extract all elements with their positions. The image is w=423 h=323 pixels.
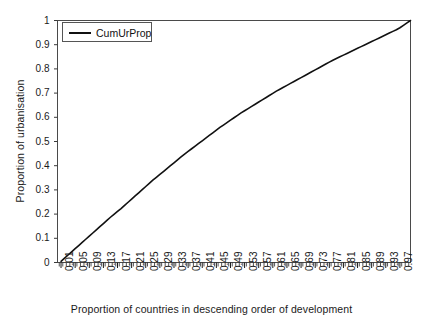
y-axis-title: Proportion of urbanisation (14, 20, 26, 262)
x-axis-tick-label: 0.93 (390, 251, 400, 270)
x-axis-tick-label: 0.81 (347, 251, 357, 270)
chart-legend: CumUrProp (62, 22, 152, 42)
legend-line-swatch (69, 32, 91, 34)
plot-frame (58, 21, 411, 263)
x-axis-tick-label: 0.57 (263, 251, 273, 270)
x-axis-tick-label: 0.65 (291, 251, 301, 270)
x-axis-tick-label: 0.61 (277, 251, 287, 270)
x-axis-tick-label: 0.37 (192, 251, 202, 270)
chart-figure: 00.10.20.30.40.50.60.70.80.91 0.010.050.… (0, 0, 423, 323)
x-axis-tick-label: 0.69 (305, 251, 315, 270)
x-axis-tick-label: 0.17 (122, 251, 132, 270)
x-axis-tick-label: 0.49 (234, 251, 244, 270)
x-axis-title: Proportion of countries in descending or… (0, 303, 423, 315)
x-axis-tick-label: 0.05 (79, 251, 89, 270)
x-axis-tick-label: 0.41 (206, 251, 216, 270)
x-axis-tick-label: 0.53 (249, 251, 259, 270)
x-axis-tick-label: 0.33 (178, 251, 188, 270)
x-axis-tick-label: 0.21 (136, 251, 146, 270)
x-axis-tick-label: 0.73 (319, 251, 329, 270)
chart-plot-svg (0, 0, 423, 323)
x-axis-tick-label: 0.89 (376, 251, 386, 270)
y-axis-ticks (54, 21, 58, 263)
x-axis-tick-label: 0.85 (362, 251, 372, 270)
x-axis-tick-label: 0.45 (220, 251, 230, 270)
x-axis-tick-label: 0.29 (164, 251, 174, 270)
legend-entry-label: CumUrProp (96, 27, 151, 39)
x-axis-tick-label: 0.01 (65, 251, 75, 270)
x-axis-tick-label: 0.77 (333, 251, 343, 270)
x-axis-tick-label: 0.97 (404, 251, 414, 270)
x-axis-tick-label: 0.13 (107, 251, 117, 270)
x-axis-tick-label: 0.09 (93, 251, 103, 270)
x-axis-tick-label: 0.25 (150, 251, 160, 270)
